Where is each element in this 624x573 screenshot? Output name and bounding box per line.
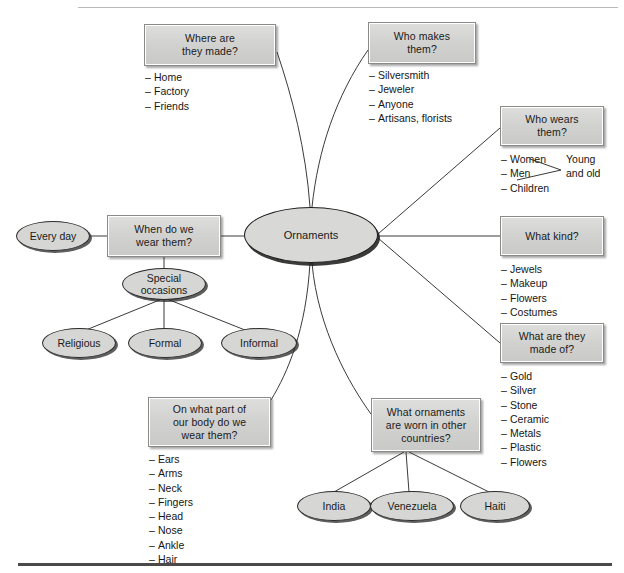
- node-label: Religious: [57, 337, 100, 349]
- list-item: –Ankle: [149, 538, 193, 552]
- list-item: –Gold: [501, 369, 549, 383]
- node-label: Haiti: [484, 500, 505, 512]
- wire-who-wears: [378, 128, 500, 234]
- diagram-canvas: Where are they made? –Home –Factory –Fri…: [0, 0, 624, 573]
- node-label: Where are they made?: [182, 32, 238, 58]
- list-item: –Fingers: [149, 495, 193, 509]
- wire-venezuela: [406, 452, 409, 492]
- list-item: –Costumes: [501, 305, 557, 319]
- wire-other-countries: [312, 263, 371, 414]
- list-item: –Artisans, florists: [369, 111, 452, 125]
- list-item: –Neck: [149, 481, 193, 495]
- bottom-rule: [18, 563, 612, 566]
- node-label: Formal: [149, 337, 182, 349]
- node-label: What kind?: [525, 230, 579, 243]
- list-item: –Head: [149, 509, 193, 523]
- bullets-who-wears: –Women –Men –Children: [501, 152, 549, 195]
- node-when-do-we-wear-them[interactable]: When do we wear them?: [107, 215, 221, 257]
- list-item: –Silversmith: [369, 68, 452, 82]
- list-item: –Factory: [145, 84, 189, 98]
- node-label: Informal: [240, 337, 278, 349]
- node-on-what-part-of-body[interactable]: On what part of our body do we wear them…: [148, 397, 271, 447]
- list-item: –Hair: [149, 552, 193, 566]
- node-india[interactable]: India: [297, 491, 371, 521]
- bullets-made-of: –Gold –Silver –Stone –Ceramic –Metals –P…: [501, 369, 549, 469]
- list-item: –Anyone: [369, 97, 452, 111]
- wire-haiti: [409, 452, 489, 492]
- node-label: India: [323, 500, 346, 512]
- node-haiti[interactable]: Haiti: [460, 491, 530, 521]
- node-every-day[interactable]: Every day: [16, 221, 90, 251]
- list-item: –Makeup: [501, 276, 557, 290]
- wire-religious: [86, 299, 162, 330]
- list-item: –Ceramic: [501, 412, 549, 426]
- wire-india: [334, 452, 404, 492]
- node-informal[interactable]: Informal: [221, 328, 297, 358]
- node-who-makes-them[interactable]: Who makes them?: [368, 22, 476, 64]
- list-item: –Jewels: [501, 262, 557, 276]
- node-what-are-they-made-of[interactable]: What are they made of?: [500, 323, 604, 363]
- node-religious[interactable]: Religious: [42, 328, 116, 358]
- node-label: What ornaments are worn in other countri…: [386, 406, 467, 445]
- list-item: –Jeweler: [369, 82, 452, 96]
- node-center-ornaments[interactable]: Ornaments: [244, 207, 378, 263]
- node-special-occasions[interactable]: Special occasions: [122, 268, 206, 300]
- list-item: –Nose: [149, 523, 193, 537]
- node-label: What are they made of?: [519, 330, 586, 356]
- node-label: Every day: [30, 230, 77, 242]
- list-item: –Flowers: [501, 291, 557, 305]
- list-item: –Ears: [149, 452, 193, 466]
- list-item: –Plastic: [501, 440, 549, 454]
- node-label: When do we wear them?: [134, 223, 193, 249]
- list-item: –Stone: [501, 398, 549, 412]
- wire-made-of: [378, 238, 500, 343]
- node-where-are-they-made[interactable]: Where are they made?: [144, 24, 276, 66]
- bullets-where-made: –Home –Factory –Friends: [145, 70, 189, 113]
- node-what-kind[interactable]: What kind?: [500, 216, 604, 256]
- node-who-wears-them[interactable]: Who wears them?: [500, 106, 604, 146]
- list-item: –Women: [501, 152, 549, 166]
- node-what-ornaments-other-countries[interactable]: What ornaments are worn in other countri…: [371, 398, 481, 452]
- node-label: Ornaments: [284, 229, 338, 241]
- list-item: –Metals: [501, 426, 549, 440]
- list-item: –Friends: [145, 99, 189, 113]
- annotation-young-and-old: Young and old: [566, 152, 600, 181]
- node-label: Who wears them?: [525, 113, 578, 139]
- wire-who-makes: [312, 50, 368, 207]
- wire-informal: [167, 299, 245, 330]
- bullets-who-makes: –Silversmith –Jeweler –Anyone –Artisans,…: [369, 68, 452, 125]
- node-venezuela[interactable]: Venezuela: [370, 491, 454, 521]
- list-item: –Flowers: [501, 455, 549, 469]
- wire-where-made: [277, 52, 310, 207]
- node-label: Who makes them?: [394, 30, 450, 56]
- list-item: –Silver: [501, 383, 549, 397]
- node-label: Special occasions: [141, 272, 188, 296]
- list-item: –Children: [501, 181, 549, 195]
- node-label: On what part of our body do we wear them…: [173, 403, 246, 442]
- bullets-what-kind: –Jewels –Makeup –Flowers –Costumes: [501, 262, 557, 319]
- list-item: –Men: [501, 166, 549, 180]
- node-formal[interactable]: Formal: [128, 328, 202, 358]
- bullets-body-part: –Ears –Arms –Neck –Fingers –Head –Nose –…: [149, 452, 193, 566]
- list-item: –Arms: [149, 466, 193, 480]
- node-label: Venezuela: [387, 500, 436, 512]
- list-item: –Home: [145, 70, 189, 84]
- top-rule: [78, 7, 618, 8]
